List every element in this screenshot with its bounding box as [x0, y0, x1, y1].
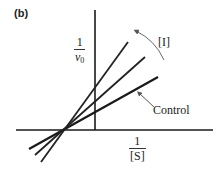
x-axis-label: 1 [S]	[129, 135, 146, 162]
lineweaver-burk-figure: (b) 1 v0 1 [S] [I] Control	[0, 0, 223, 171]
y-axis-label: 1 v0	[74, 36, 85, 63]
x-axis-label-denominator: [S]	[129, 150, 146, 162]
y-axis-label-denominator: v0	[74, 51, 85, 63]
inhibitor-concentration-label: [I]	[158, 36, 170, 48]
x-axis-label-numerator: 1	[132, 135, 142, 147]
control-pointer-arrow	[139, 93, 154, 107]
control-label: Control	[153, 104, 190, 116]
plot-canvas	[0, 0, 223, 171]
y-axis-label-numerator: 1	[75, 36, 85, 48]
